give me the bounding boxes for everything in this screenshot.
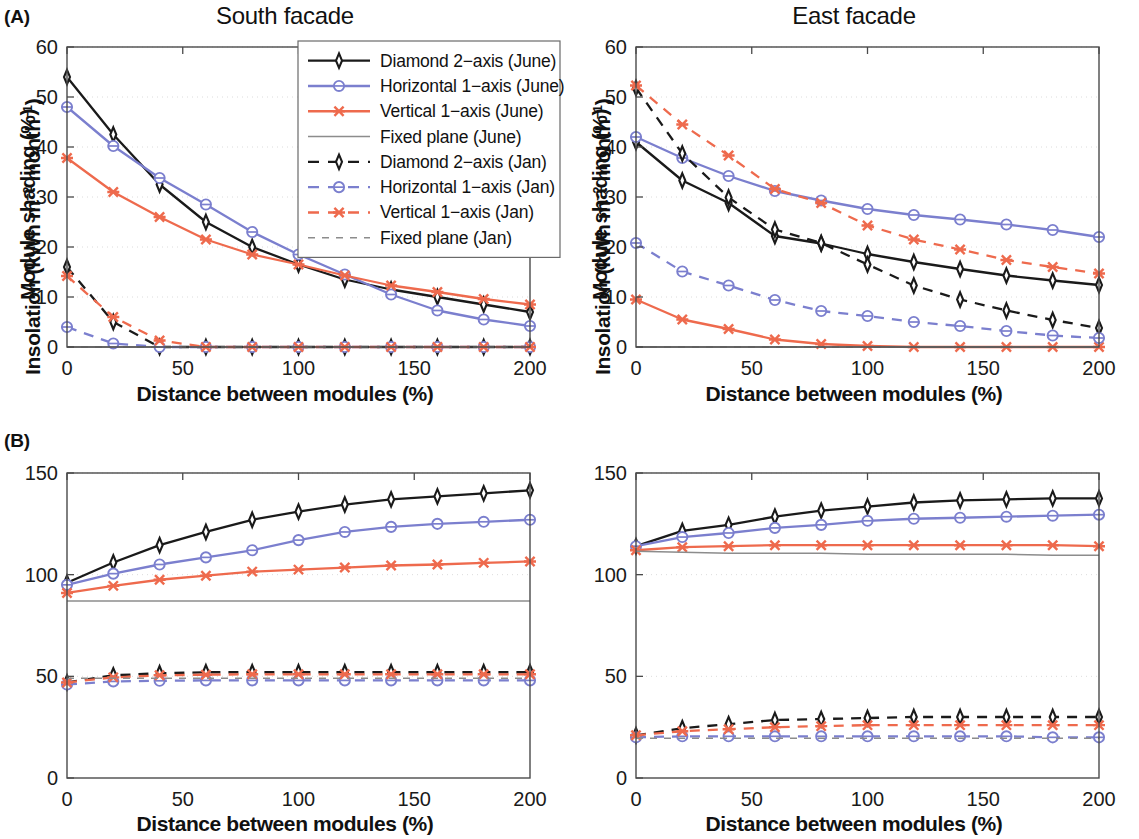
data-point-marker xyxy=(865,257,871,271)
series-group xyxy=(61,483,536,690)
y-tick-label: 50 xyxy=(605,665,627,687)
x-tick-label: 200 xyxy=(513,357,546,379)
data-point-marker xyxy=(203,525,209,539)
x-tick-label: 0 xyxy=(61,788,72,810)
y-tick-label: 0 xyxy=(616,336,627,358)
data-point-marker xyxy=(434,489,440,503)
legend-label: Vertical 1−axis (Jan) xyxy=(380,202,534,222)
data-series xyxy=(62,515,535,590)
x-tick-label: 0 xyxy=(630,788,641,810)
legend-label: Diamond 2−axis (June) xyxy=(380,51,556,71)
x-tick-label: 0 xyxy=(61,357,72,379)
axes: 050100150050100150200 xyxy=(594,462,1116,810)
y-tick-label: 150 xyxy=(25,462,58,484)
x-tick-label: 0 xyxy=(630,357,641,379)
y-tick-label: 100 xyxy=(594,564,627,586)
panel-south-insolation: (B) Distance between modules (%) 0501001… xyxy=(0,420,570,839)
series-line xyxy=(67,520,530,585)
data-point-marker xyxy=(154,575,166,584)
data-point-marker xyxy=(293,565,305,574)
y-axis-title-insolation-east: Insolation (kWh m−2 month−1) xyxy=(590,99,615,375)
data-point-marker xyxy=(203,215,209,229)
data-point-marker xyxy=(911,255,917,269)
data-point-marker xyxy=(478,558,490,567)
x-tick-label: 150 xyxy=(967,788,1000,810)
legend-label: Horizontal 1−axis (June) xyxy=(380,76,564,96)
data-series xyxy=(62,675,535,689)
data-point-marker xyxy=(385,561,397,570)
series-line xyxy=(636,551,1099,555)
data-point-marker xyxy=(676,543,688,552)
data-point-marker xyxy=(679,173,685,187)
data-series xyxy=(631,731,1104,742)
x-tick-label: 100 xyxy=(282,788,315,810)
data-point-marker xyxy=(200,571,212,580)
panel-east-shading: East facade Distance between modules (%)… xyxy=(569,0,1139,420)
data-point-marker xyxy=(957,493,963,507)
x-tick-label: 150 xyxy=(398,788,431,810)
data-point-marker xyxy=(154,212,166,221)
data-point-marker xyxy=(911,495,917,509)
data-series xyxy=(636,551,1099,555)
data-point-marker xyxy=(865,499,871,513)
plot-canvas-south-shading: 0102030405060050100150200Diamond 2−axis … xyxy=(0,0,570,420)
figure-root: (A) South facade Module shading (%) Dist… xyxy=(0,0,1139,839)
data-point-marker xyxy=(676,315,688,324)
data-point-marker xyxy=(769,335,781,344)
data-point-marker xyxy=(157,538,163,552)
data-point-marker xyxy=(249,513,255,527)
series-group xyxy=(630,491,1105,742)
data-point-marker xyxy=(723,542,735,551)
data-point-marker xyxy=(339,563,351,572)
x-tick-label: 200 xyxy=(1082,788,1115,810)
plot-canvas-south-insolation: 050100150050100150200 xyxy=(0,420,570,839)
data-point-marker xyxy=(1003,268,1009,282)
data-point-marker xyxy=(908,235,920,244)
x-tick-label: 50 xyxy=(172,788,194,810)
data-point-marker xyxy=(908,541,920,550)
legend-label: Horizontal 1−axis (Jan) xyxy=(380,177,555,197)
series-line xyxy=(67,276,530,347)
data-point-marker xyxy=(815,541,827,550)
y-tick-label: 60 xyxy=(605,36,627,58)
data-point-marker xyxy=(862,541,874,550)
plot-canvas-east-insolation: 050100150050100150200 xyxy=(569,420,1139,839)
x-tick-label: 50 xyxy=(741,357,763,379)
y-tick-label: 150 xyxy=(594,462,627,484)
data-point-marker xyxy=(957,262,963,276)
data-point-marker xyxy=(1003,492,1009,506)
data-point-marker xyxy=(676,120,688,129)
data-point-marker xyxy=(911,278,917,292)
data-point-marker xyxy=(954,541,966,550)
data-point-marker xyxy=(107,187,119,196)
data-point-marker xyxy=(107,581,119,590)
data-point-marker xyxy=(957,292,963,306)
data-point-marker xyxy=(1003,303,1009,317)
y-tick-label: 100 xyxy=(25,564,58,586)
data-point-marker xyxy=(481,486,487,500)
data-series xyxy=(61,557,536,598)
data-point-marker xyxy=(772,510,778,524)
data-point-marker xyxy=(1047,541,1059,550)
x-tick-label: 150 xyxy=(967,357,1000,379)
data-point-marker xyxy=(1050,491,1056,505)
data-point-marker xyxy=(1000,255,1012,264)
panel-south-shading: (A) South facade Module shading (%) Dist… xyxy=(0,0,570,420)
x-tick-label: 150 xyxy=(398,357,431,379)
data-point-marker xyxy=(954,245,966,254)
series-line xyxy=(67,561,530,593)
series-line xyxy=(636,137,1099,237)
legend-label: Fixed plane (June) xyxy=(380,127,521,147)
series-line xyxy=(67,267,530,347)
data-point-marker xyxy=(1050,313,1056,327)
data-point-marker xyxy=(862,341,874,350)
data-point-marker xyxy=(1047,262,1059,271)
x-tick-label: 100 xyxy=(851,788,884,810)
legend-label: Diamond 2−axis (Jan) xyxy=(380,152,547,172)
data-point-marker xyxy=(110,127,116,141)
data-point-marker xyxy=(110,555,116,569)
legend-label: Vertical 1−axis (June) xyxy=(380,101,543,121)
y-axis-title-insolation-south: Insolation (kWh m−2 month−1) xyxy=(20,99,45,375)
legend: Diamond 2−axis (June)Horizontal 1−axis (… xyxy=(298,41,564,257)
x-tick-label: 100 xyxy=(282,357,315,379)
